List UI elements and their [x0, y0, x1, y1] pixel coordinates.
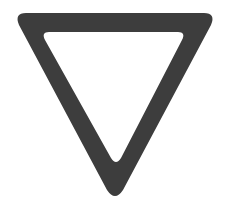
yield-sign — [0, 0, 230, 211]
triangle-outline — [18, 13, 213, 196]
inverted-triangle-icon — [0, 0, 230, 211]
